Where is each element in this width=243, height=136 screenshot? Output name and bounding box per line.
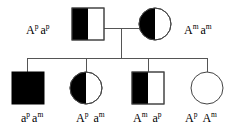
individual-child-3[interactable] bbox=[132, 72, 164, 104]
child-3-allele-1-superscript: m bbox=[142, 110, 148, 119]
genotype-label-child-4: ApAm bbox=[185, 112, 217, 124]
mother-allele-2-superscript: m bbox=[206, 22, 212, 31]
individual-child-1[interactable] bbox=[12, 72, 44, 104]
genotype-label-child-2: Apam bbox=[76, 112, 105, 124]
father-allele-1: A bbox=[26, 23, 35, 37]
individual-mother[interactable] bbox=[139, 8, 171, 40]
child-4-allele-2-superscript: m bbox=[211, 110, 217, 119]
child-2-allele-2-superscript: m bbox=[99, 110, 105, 119]
child-4-allele-2: A bbox=[202, 111, 211, 125]
individual-father[interactable] bbox=[72, 8, 104, 40]
child-3-allele-2-superscript: p bbox=[158, 110, 162, 119]
genotype-label-mother: Amam bbox=[184, 24, 212, 36]
connector-lines bbox=[27, 28, 207, 72]
child-1-allele-2-superscript: m bbox=[37, 110, 43, 119]
genotype-label-father: Apap bbox=[26, 24, 50, 36]
father-allele-2-superscript: p bbox=[46, 22, 50, 31]
child-3-symbol-affected-half bbox=[132, 72, 148, 104]
child-2-allele-1: A bbox=[76, 111, 85, 125]
mother-allele-1: A bbox=[184, 23, 193, 37]
individual-child-4[interactable] bbox=[191, 72, 223, 104]
genotype-label-child-3: Amap bbox=[133, 112, 162, 124]
child-4-allele-1: A bbox=[185, 111, 194, 125]
child-3-allele-1: A bbox=[133, 111, 142, 125]
pedigree-diagram: Apap Amam apam Apam Amap ApAm bbox=[0, 0, 243, 136]
child-4-symbol-unaffected bbox=[191, 72, 223, 104]
child-2-symbol-affected-half bbox=[70, 72, 86, 104]
child-4-allele-1-superscript: p bbox=[194, 110, 198, 119]
father-allele-1-superscript: p bbox=[35, 22, 39, 31]
individual-child-2[interactable] bbox=[70, 72, 102, 104]
mother-symbol-affected-half bbox=[139, 8, 155, 40]
father-symbol-affected-half bbox=[72, 8, 88, 40]
child-1-symbol-affected bbox=[12, 72, 44, 104]
child-2-allele-1-superscript: p bbox=[85, 110, 89, 119]
genotype-label-child-1: apam bbox=[21, 112, 43, 124]
mother-allele-1-superscript: m bbox=[193, 22, 199, 31]
child-1-allele-1-superscript: p bbox=[26, 110, 30, 119]
